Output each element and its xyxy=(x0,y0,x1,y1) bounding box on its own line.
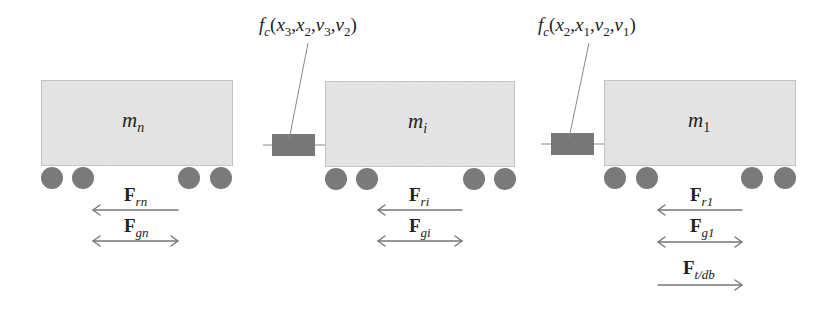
mass-label-i: mi xyxy=(408,109,427,137)
force-label-rn: Frn xyxy=(124,184,147,210)
wheel-icon xyxy=(741,167,763,189)
wheel-icon xyxy=(494,168,516,190)
coupler-block xyxy=(272,134,315,156)
force-label-gn: Fgn xyxy=(124,215,149,241)
wheel-icon xyxy=(463,168,485,190)
coupler-label-2-1: fc(x2,x1,v2,v1) xyxy=(538,14,636,40)
force-label-r1: Fr1 xyxy=(690,184,713,210)
wheel-icon xyxy=(72,167,94,189)
force-label-g1: Fg1 xyxy=(690,215,715,241)
force-label-tdb: Ft/db xyxy=(683,257,715,283)
coupler-2-1 xyxy=(541,43,604,155)
coupler-leader-line xyxy=(569,43,589,138)
wheel-icon xyxy=(356,168,378,190)
force-label-ri: Fri xyxy=(409,184,429,210)
wheel-icon xyxy=(636,167,658,189)
coupler-leader-line xyxy=(289,43,308,140)
wheel-icon xyxy=(178,167,200,189)
wheel-icon xyxy=(604,167,626,189)
wheel-icon xyxy=(774,167,796,189)
coupler-3-2 xyxy=(263,43,325,156)
coupler-block xyxy=(551,133,594,155)
coupler-label-3-2: fc(x3,x2,v3,v2) xyxy=(259,14,357,40)
mass-label-n: mn xyxy=(122,108,144,136)
wheel-icon xyxy=(325,168,347,190)
wheel-icon xyxy=(41,167,63,189)
force-label-gi: Fgi xyxy=(409,215,431,241)
wheel-icon xyxy=(210,167,232,189)
mass-label-1: m1 xyxy=(688,108,710,136)
